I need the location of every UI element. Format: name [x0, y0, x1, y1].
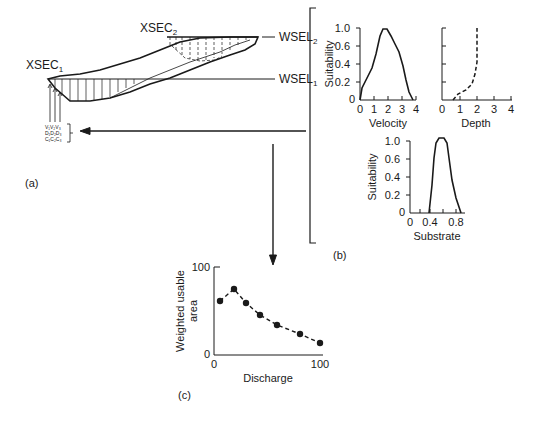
velocity-xlabel: Velocity: [369, 117, 407, 129]
wua-ylabel-line1: Weighted usable: [174, 270, 186, 352]
velocity-xtick-3: 3: [399, 103, 405, 115]
panel-b-label: (b): [333, 249, 346, 261]
xsec2-label: XSEC2: [140, 21, 178, 37]
substrate-ylabel: Suitability: [366, 153, 378, 201]
substrate-xlabel: Substrate: [413, 230, 460, 242]
river-reach-diagram: [48, 37, 275, 142]
wua-ytick-100: 100: [192, 261, 210, 273]
velocity-xtick-0: 0: [357, 103, 363, 115]
panel-b-ylabel: Suitability: [323, 40, 335, 88]
xsec2-hatch: [170, 37, 246, 61]
velocity-chart: [356, 28, 416, 100]
figure: XSEC1 XSEC2 WSEL2 WSEL1 V₁V₂V₃ D₁D₂D₃ C₁…: [0, 0, 533, 425]
depth-xtick-0: 0: [439, 103, 445, 115]
vars-substrate: C₁C₂C₃: [45, 136, 62, 142]
substrate-chart: [406, 138, 465, 213]
measurement-arrows: [48, 84, 62, 122]
depth-xtick-1: 1: [457, 103, 463, 115]
substrate-ytick-1.0: 1.0: [385, 135, 400, 147]
flow-arrow-down: [270, 144, 277, 265]
substrate-xtick-0: 0: [407, 216, 413, 228]
velocity-ytick-0.4: 0.4: [335, 58, 350, 70]
wsel2-label: WSEL2: [279, 30, 318, 46]
wua-ylabel-line2: area: [187, 299, 199, 322]
wua-xtick-100: 100: [311, 358, 329, 370]
wua-ytick-0: 0: [204, 348, 210, 360]
depth-xlabel: Depth: [461, 117, 490, 129]
wua-xlabel: Discharge: [243, 372, 293, 384]
velocity-xtick-2: 2: [385, 103, 391, 115]
depth-chart: [442, 28, 512, 100]
wua-chart: [214, 267, 323, 355]
velocity-ytick-1.0: 1.0: [335, 22, 350, 34]
substrate-ytick-0: 0: [399, 206, 405, 218]
panel-a-label: (a): [25, 177, 38, 189]
velocity-ytick-0.2: 0.2: [335, 76, 350, 88]
substrate-ytick-0.6: 0.6: [385, 153, 400, 165]
velocity-ytick-0.6: 0.6: [335, 40, 350, 52]
velocity-ytick-0: 0: [349, 93, 355, 105]
depth-xtick-2: 2: [474, 103, 480, 115]
wsel1-label: WSEL1: [279, 72, 318, 88]
xsec1-label: XSEC1: [26, 58, 64, 74]
velocity-xtick-4: 4: [413, 103, 419, 115]
flow-arrow-left: [80, 128, 306, 135]
depth-xtick-3: 3: [491, 103, 497, 115]
substrate-ytick-0.2: 0.2: [385, 189, 400, 201]
velocity-xtick-1: 1: [371, 103, 377, 115]
panel-c-label: (c): [178, 389, 191, 401]
substrate-ytick-0.4: 0.4: [385, 171, 400, 183]
substrate-xtick-0.8: 0.8: [448, 216, 463, 228]
depth-xtick-4: 4: [508, 103, 514, 115]
wua-xtick-0: 0: [211, 358, 217, 370]
substrate-xtick-0.4: 0.4: [422, 216, 437, 228]
